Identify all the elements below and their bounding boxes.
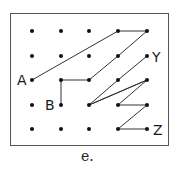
grid-dot — [59, 54, 63, 58]
point-label-y: Y — [152, 50, 161, 64]
path-segment — [32, 31, 147, 105]
grid-dot — [30, 78, 34, 82]
grid-dot — [30, 103, 34, 107]
grid-dot — [59, 29, 63, 33]
point-label-z: Z — [153, 123, 163, 137]
grid-dot — [30, 127, 34, 131]
grid-dot — [145, 103, 149, 107]
grid-dot — [116, 29, 120, 33]
grid-dot — [145, 127, 149, 131]
grid-dot — [87, 54, 91, 58]
grid-dot — [145, 78, 149, 82]
grid-dot — [145, 54, 149, 58]
grid-dot — [116, 78, 120, 82]
grid-dot — [59, 127, 63, 131]
grid-dot — [87, 78, 91, 82]
grid-dot — [116, 54, 120, 58]
grid-dot — [116, 103, 120, 107]
point-label-b: B — [45, 98, 55, 112]
grid-dot — [87, 127, 91, 131]
grid-dot — [87, 29, 91, 33]
grid-dot — [30, 54, 34, 58]
grid-dot — [59, 78, 63, 82]
grid-dot — [59, 103, 63, 107]
grid-dot — [87, 103, 91, 107]
figure-caption: e. — [81, 148, 94, 164]
grid-dot — [116, 127, 120, 131]
point-label-a: A — [17, 73, 27, 87]
path-segment — [89, 80, 147, 105]
grid-dot — [30, 29, 34, 33]
grid-dot — [145, 29, 149, 33]
